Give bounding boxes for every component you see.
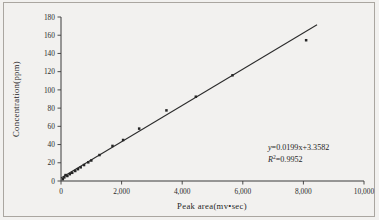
x-tick-label: 0 bbox=[59, 187, 63, 196]
y-tick-label: 180 bbox=[44, 13, 55, 22]
data-point bbox=[69, 173, 72, 176]
y-axis-ticks bbox=[58, 17, 62, 181]
x-tick-label: 10,000 bbox=[354, 187, 375, 196]
data-point bbox=[63, 176, 66, 179]
data-point bbox=[165, 109, 168, 112]
x-axis-ticks bbox=[61, 181, 364, 185]
data-point bbox=[305, 39, 308, 42]
y-tick-label: 60 bbox=[48, 122, 56, 131]
data-point bbox=[87, 161, 90, 164]
x-axis-tick-labels: 02,0004,0006,0008,00010,000 bbox=[59, 187, 374, 196]
data-point bbox=[195, 95, 198, 98]
y-axis-title: Concentration(ppm) bbox=[11, 61, 21, 137]
x-tick-label: 6,000 bbox=[234, 187, 251, 196]
y-tick-label: 120 bbox=[44, 67, 55, 76]
r-squared-body: =0.9952 bbox=[276, 155, 303, 164]
y-tick-label: 100 bbox=[44, 86, 55, 95]
x-tick-label: 8,000 bbox=[295, 187, 312, 196]
y-axis-tick-labels: 020406080100120140160180 bbox=[44, 13, 55, 186]
equation-body: =0.0199x+3.3582 bbox=[272, 143, 330, 152]
y-tick-label: 140 bbox=[44, 49, 55, 58]
y-tick-label: 20 bbox=[48, 158, 56, 167]
chart-figure: 020406080100120140160180 02,0004,0006,00… bbox=[0, 0, 379, 220]
data-point bbox=[71, 172, 74, 175]
data-point bbox=[79, 166, 82, 169]
data-point bbox=[98, 154, 101, 157]
data-point bbox=[77, 168, 80, 171]
axes-group bbox=[61, 17, 364, 181]
equation-annotation: y=0.0199x+3.3582 R2=0.9952 bbox=[267, 143, 329, 164]
scatter-plot: 020406080100120140160180 02,0004,0006,00… bbox=[0, 0, 379, 220]
data-point bbox=[74, 170, 77, 173]
data-point bbox=[83, 164, 86, 167]
data-point bbox=[111, 145, 114, 148]
y-tick-label: 80 bbox=[48, 104, 56, 113]
x-tick-label: 2,000 bbox=[113, 187, 130, 196]
data-point bbox=[66, 175, 69, 178]
x-tick-label: 4,000 bbox=[174, 187, 191, 196]
y-tick-label: 40 bbox=[48, 140, 56, 149]
data-point bbox=[138, 127, 141, 130]
data-point bbox=[122, 139, 125, 142]
r-squared-line: R2=0.9952 bbox=[267, 154, 303, 164]
x-axis-title: Peak area(mv•sec) bbox=[177, 201, 247, 211]
equation-line: y=0.0199x+3.3582 bbox=[267, 143, 329, 152]
data-point bbox=[231, 74, 234, 77]
y-tick-label: 160 bbox=[44, 31, 55, 40]
y-tick-label: 0 bbox=[51, 177, 55, 186]
data-point bbox=[90, 159, 93, 162]
